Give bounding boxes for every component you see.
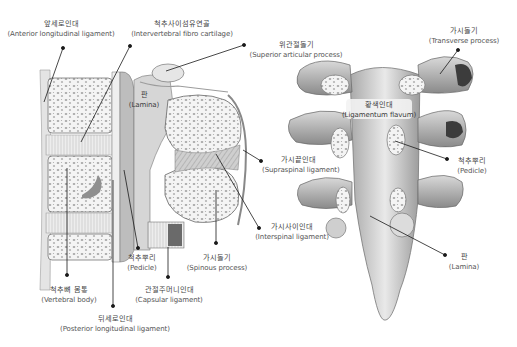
label-en: (Spinous process) (180, 263, 254, 273)
label-ko: 위관절돌기 (246, 40, 346, 50)
label-interspinal-ligament: 가시사이인대 (Interspinal ligament) (254, 222, 330, 242)
label-pedicle-left: 척추뿌리 (Pedicle) (122, 253, 162, 273)
label-ko: 황색인대 (340, 100, 418, 110)
label-ligamentum-flavum: 황색인대 (Ligamentum flavum) (340, 100, 418, 120)
label-lamina-right: 판 (Lamina) (446, 252, 482, 272)
label-en: (Vertebral body) (38, 295, 100, 305)
label-ko: 뒤세로인대 (56, 314, 174, 324)
label-en: (Pedicle) (122, 263, 162, 273)
label-ko: 가시돌기 (180, 253, 254, 263)
label-en: (Capsular ligament) (133, 295, 205, 305)
label-en: (Ligamentum flavum) (340, 110, 418, 120)
label-en: (Posterior longitudinal ligament) (56, 324, 174, 334)
posterior-view (288, 57, 473, 320)
label-en: (Anterior longitudinal ligament) (4, 29, 118, 39)
label-spinous-process: 가시돌기 (Spinous process) (180, 253, 254, 273)
label-transverse-process: 가시돌기 (Transverse process) (424, 26, 504, 46)
label-vertebral-body: 척추뼈 몸통 (Vertebral body) (38, 285, 100, 305)
label-en: (Lamina) (124, 100, 164, 110)
label-ko: 앞세로인대 (4, 19, 118, 29)
label-en: (Lamina) (446, 262, 482, 272)
label-en: (Intervertebral fibro cartilage) (124, 29, 240, 39)
label-capsular-ligament: 관절주머니인대 (Capsular ligament) (133, 285, 205, 305)
label-ko: 가시돌기 (424, 26, 504, 36)
label-ko: 척추뿌리 (452, 156, 492, 166)
label-ko: 판 (446, 252, 482, 262)
label-en: (Interspinal ligament) (254, 232, 330, 242)
label-ko: 가시끝인대 (262, 155, 334, 165)
label-supraspinal-ligament: 가시끝인대 (Supraspinal ligament) (262, 155, 334, 175)
label-pedicle-right: 척추뿌리 (Pedicle) (452, 156, 492, 176)
label-ko: 판 (124, 90, 164, 100)
label-en: (Transverse process) (424, 36, 504, 46)
label-posterior-longitudinal-ligament: 뒤세로인대 (Posterior longitudinal ligament) (56, 314, 174, 334)
label-en: (Pedicle) (452, 166, 492, 176)
label-ko: 척추뼈 몸통 (38, 285, 100, 295)
label-lamina-left: 판 (Lamina) (124, 90, 164, 110)
label-intervertebral-fibro-cartilage: 척추사이섬유연골 (Intervertebral fibro cartilage… (124, 19, 240, 39)
label-ko: 척추뿌리 (122, 253, 162, 263)
label-superior-articular-process: 위관절돌기 (Superior articular process) (246, 40, 346, 60)
label-en: (Superior articular process) (246, 50, 346, 60)
label-anterior-longitudinal-ligament: 앞세로인대 (Anterior longitudinal ligament) (4, 19, 118, 39)
anatomy-figure: 앞세로인대 (Anterior longitudinal ligament) 척… (0, 0, 517, 347)
label-ko: 관절주머니인대 (133, 285, 205, 295)
label-ko: 가시사이인대 (254, 222, 330, 232)
label-ko: 척추사이섬유연골 (124, 19, 240, 29)
label-en: (Supraspinal ligament) (262, 165, 334, 175)
